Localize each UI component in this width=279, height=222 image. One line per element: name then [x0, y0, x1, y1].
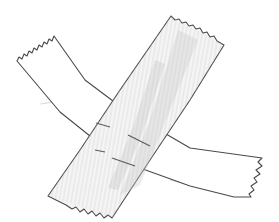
tape-sketch: Two strips of tape crossed in an X shape…: [0, 0, 279, 222]
crossed-tape-drawing: [0, 0, 279, 222]
